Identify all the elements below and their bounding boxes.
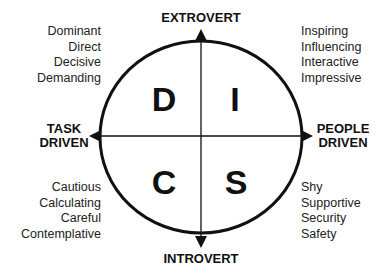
axis-label-task-driven: TASK DRIVEN <box>34 122 94 150</box>
axis-label-task-line2: DRIVEN <box>34 136 94 150</box>
trait-item: Direct <box>37 40 101 56</box>
arrow-down-icon <box>195 236 207 248</box>
trait-item: Inspiring <box>301 24 361 40</box>
axis-label-task-line1: TASK <box>34 122 94 136</box>
trait-item: Calculating <box>21 196 101 212</box>
quadrant-letter-i: I <box>215 82 255 116</box>
trait-item: Security <box>301 211 361 227</box>
quadrant-letter-c: C <box>144 165 184 199</box>
trait-item: Decisive <box>37 55 101 71</box>
trait-list-i: Inspiring Influencing Interactive Impres… <box>301 24 361 86</box>
trait-item: Impressive <box>301 71 361 87</box>
axis-label-people-driven: PEOPLE DRIVEN <box>312 122 374 150</box>
trait-item: Demanding <box>37 71 101 87</box>
trait-list-c: Cautious Calculating Careful Contemplati… <box>21 180 101 242</box>
trait-item: Influencing <box>301 40 361 56</box>
axis-label-people-line2: DRIVEN <box>312 136 374 150</box>
trait-item: Safety <box>301 227 361 243</box>
quadrant-letter-s: S <box>216 165 256 199</box>
trait-list-s: Shy Supportive Security Safety <box>301 180 361 242</box>
trait-item: Contemplative <box>21 227 101 243</box>
trait-list-d: Dominant Direct Decisive Demanding <box>37 24 101 86</box>
axis-label-introvert: INTROVERT <box>151 252 251 266</box>
trait-item: Interactive <box>301 55 361 71</box>
trait-item: Shy <box>301 180 361 196</box>
trait-item: Dominant <box>37 24 101 40</box>
trait-item: Supportive <box>301 196 361 212</box>
axis-label-extrovert: EXTROVERT <box>151 11 251 25</box>
arrow-up-icon <box>195 29 207 41</box>
trait-item: Cautious <box>21 180 101 196</box>
quadrant-letter-d: D <box>144 82 184 116</box>
axis-label-people-line1: PEOPLE <box>312 122 374 136</box>
trait-item: Careful <box>21 211 101 227</box>
